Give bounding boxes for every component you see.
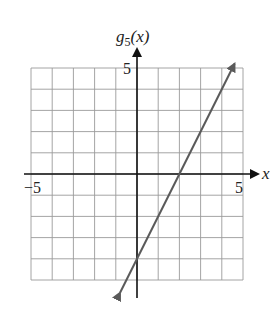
y-axis-label: g5(x) <box>116 27 150 49</box>
graph: g5(x) x −5 5 5 <box>0 0 275 310</box>
x-axis-label: x <box>261 164 270 183</box>
x-tick-label-max: 5 <box>235 179 243 196</box>
y-tick-label-max: 5 <box>123 60 131 77</box>
x-tick-label-min: −5 <box>24 179 41 196</box>
